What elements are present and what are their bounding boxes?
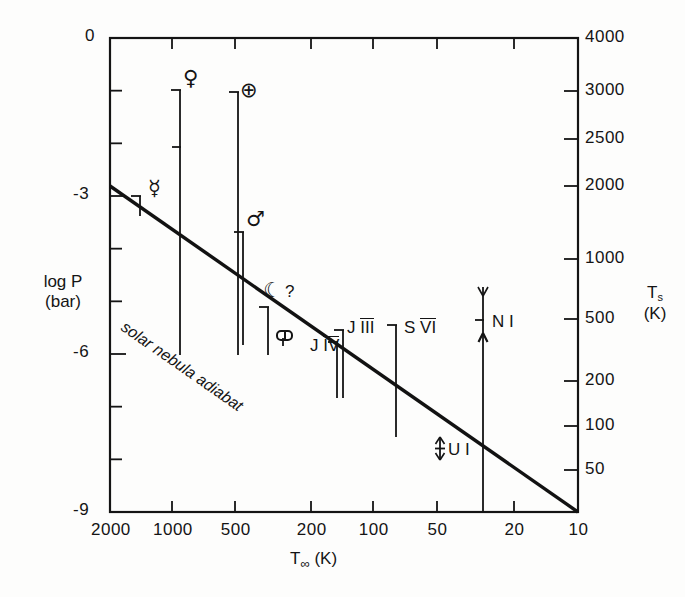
x-tick-label: 10 [569, 520, 589, 540]
x-tick-label: 1000 [153, 520, 193, 540]
label-prefix: J [310, 336, 323, 355]
y-axis-ticks-right [564, 38, 578, 470]
x-tick-label: 100 [359, 520, 389, 540]
y-axis-title: log P (bar) [18, 272, 108, 311]
y2-tick-label: 200 [585, 370, 615, 390]
y2-tick-label: 100 [585, 415, 615, 435]
y-tick-label: -9 [73, 500, 89, 520]
ariel-label: U I [448, 440, 470, 460]
label-roman-numeral: III [360, 318, 374, 336]
body-stems [131, 90, 488, 512]
io-symbol-divider [284, 332, 286, 339]
triton-label: N I [492, 312, 514, 332]
x-tick-label: 2000 [91, 520, 131, 540]
y-tick-label: -6 [73, 342, 89, 362]
y2-tick-label: 50 [585, 459, 605, 479]
y2-tick-label: 1000 [585, 248, 625, 268]
mars-symbol-icon: ♂ [246, 209, 265, 230]
ganymede-label: J III [347, 318, 374, 338]
y2-tick-label: 3000 [585, 80, 625, 100]
y2-tick-label: 500 [585, 308, 615, 328]
y-tick-label: -3 [73, 184, 89, 204]
moon-symbol-icon: ☾ [263, 280, 282, 301]
x-axis-title-unit: (K) [314, 549, 337, 568]
x-tick-label: 20 [505, 520, 525, 540]
moon-label: ? [285, 282, 294, 302]
io-symbol-icon [276, 330, 293, 341]
label-prefix: J [347, 318, 360, 337]
x-axis-title-base: T [290, 549, 300, 568]
y-axis-title-line1: log P [44, 272, 83, 291]
label-prefix: S [404, 318, 420, 337]
mercury-symbol-icon: ☿ [148, 178, 161, 199]
x-tick-label: 200 [297, 520, 327, 540]
y2-axis-title: Ts (K) [626, 283, 684, 323]
label-roman-numeral: IV [323, 336, 339, 354]
titan-label: S VI [404, 318, 436, 338]
y-axis-title-line2: (bar) [45, 292, 81, 311]
y2-axis-title-sub: s [657, 291, 663, 303]
callisto-label: J IV [310, 336, 339, 356]
y2-tick-label: 4000 [585, 27, 625, 47]
x-tick-label: 50 [428, 520, 448, 540]
venus-symbol-icon: ♀ [183, 68, 198, 89]
x-axis-title-sub: ∞ [300, 556, 309, 571]
y2-axis-title-unit: (K) [644, 304, 667, 323]
y-axis-ticks-left [110, 91, 126, 460]
y2-axis-title-base: T [647, 283, 657, 302]
y2-tick-label: 2500 [585, 128, 625, 148]
y2-tick-label: 2000 [585, 175, 625, 195]
label-roman-numeral: VI [420, 318, 436, 336]
earth-symbol-icon: ⊕ [240, 80, 258, 101]
figure-root: 0-3-6-9 20001000500200100502010 40003000… [0, 0, 685, 597]
x-axis-title: T∞ (K) [290, 549, 337, 572]
y-tick-label: 0 [85, 26, 95, 46]
x-tick-label: 500 [221, 520, 251, 540]
